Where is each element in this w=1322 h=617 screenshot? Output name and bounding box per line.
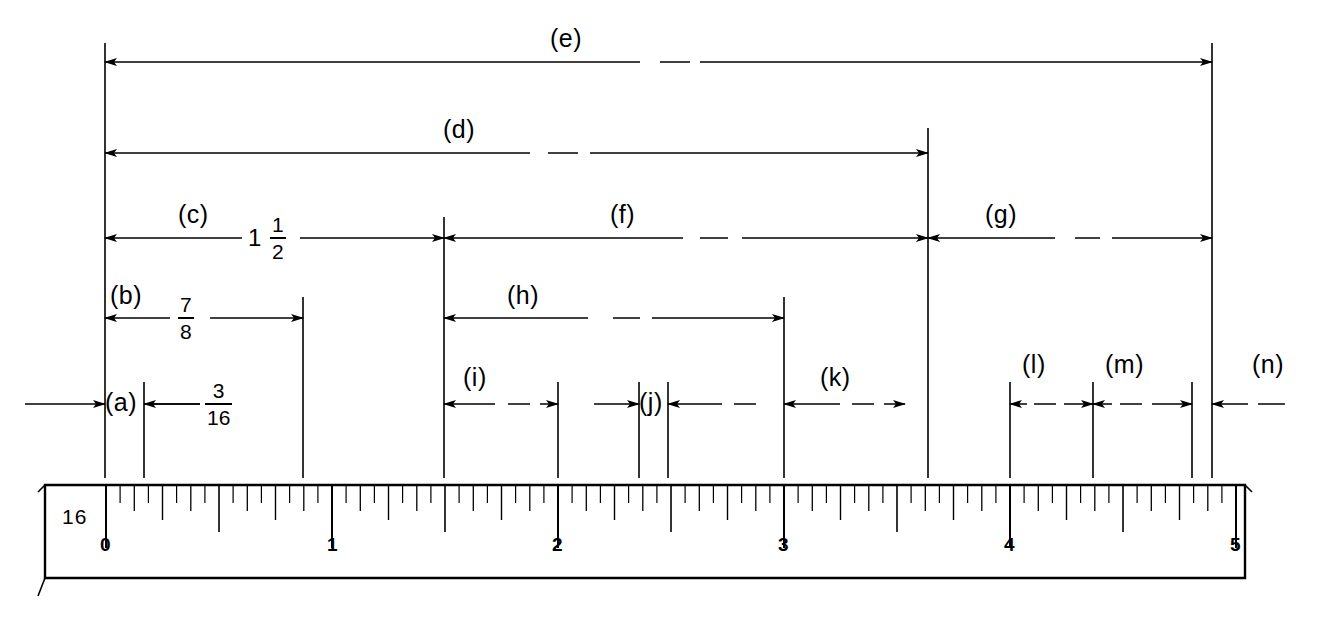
dimension-label-m: (m) xyxy=(1105,350,1144,379)
fraction-numerator: 7 xyxy=(178,294,194,315)
ruler-tick-label-0: 0 xyxy=(100,534,111,556)
dimension-label-f: (f) xyxy=(610,200,635,229)
dimension-label-j: (j) xyxy=(639,388,663,417)
fraction-numerator: 1 xyxy=(270,214,286,235)
fraction-bar xyxy=(178,317,194,319)
fraction-denominator: 16 xyxy=(205,407,232,428)
drawing-canvas: (e) (d) (c) (f) (g) (b) (h) (a) (i) (j) … xyxy=(0,0,1322,617)
dimension-label-l: (l) xyxy=(1022,350,1046,379)
dimension-label-c: (c) xyxy=(178,200,209,229)
ruler-tick-label-3: 3 xyxy=(778,534,789,556)
dimension-value-b-fraction: 7 8 xyxy=(178,294,194,342)
ruler-body xyxy=(38,485,1252,596)
dimension-label-e: (e) xyxy=(550,24,582,53)
dimension-label-b: (b) xyxy=(110,281,142,310)
dimension-drawing-svg xyxy=(0,0,1322,617)
fraction-denominator: 2 xyxy=(270,241,286,262)
dimension-label-d: (d) xyxy=(443,115,475,144)
dimension-value-c-fraction: 1 2 xyxy=(270,214,286,262)
fraction-numerator: 3 xyxy=(205,380,232,401)
dimension-label-i: (i) xyxy=(463,363,487,392)
dimension-label-n: (n) xyxy=(1252,350,1284,379)
dimension-value-a-fraction: 3 16 xyxy=(205,380,232,428)
ruler-tick-label-4: 4 xyxy=(1004,534,1015,556)
ruler-tick-label-1: 1 xyxy=(327,534,338,556)
dimension-label-g: (g) xyxy=(985,200,1017,229)
fraction-bar xyxy=(270,237,286,239)
ruler-scale-label: 16 xyxy=(62,505,87,529)
dimension-label-a: (a) xyxy=(105,388,137,417)
ruler-tick-label-2: 2 xyxy=(552,534,563,556)
dimension-label-k: (k) xyxy=(820,363,851,392)
fraction-bar xyxy=(205,403,232,405)
ruler-tick-label-5: 5 xyxy=(1230,534,1241,556)
dimension-value-c-whole: 1 xyxy=(248,224,261,252)
fraction-denominator: 8 xyxy=(178,321,194,342)
dimension-label-h: (h) xyxy=(507,281,539,310)
ruler-graduations xyxy=(106,486,1236,548)
